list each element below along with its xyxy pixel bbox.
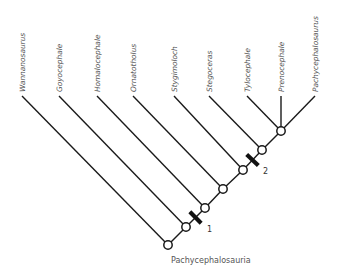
node-circle <box>277 127 285 135</box>
taxon-label: Goyocephale <box>55 43 64 92</box>
taxon-label: Pachycephalosaurus <box>311 16 320 92</box>
terminal-branch <box>133 96 223 189</box>
taxon-label: Stegoceras <box>205 50 214 92</box>
synapomorphy-label: 2 <box>263 167 268 176</box>
terminal-branch <box>22 96 168 245</box>
terminal-branch <box>247 96 281 131</box>
cladogram-svg: WannanosaurusGoyocephaleHomalocephaleOrn… <box>0 0 338 273</box>
terminal-branch <box>174 96 243 170</box>
cladogram-figure: WannanosaurusGoyocephaleHomalocephaleOrn… <box>0 0 338 273</box>
taxon-label: Tylocephale <box>243 48 252 92</box>
root-clade-label: Pachycephalosauria <box>171 256 251 265</box>
terminal-branch <box>281 96 315 131</box>
taxon-label: Wannanosaurus <box>18 33 27 92</box>
node-circle <box>201 204 209 212</box>
synapomorphy-label: 1 <box>207 225 212 234</box>
node-circle <box>258 146 266 154</box>
node-circle <box>164 241 172 249</box>
terminal-branch <box>59 96 186 227</box>
taxon-label: Prenocephale <box>277 41 286 92</box>
taxon-label: Ornatotholus <box>129 44 138 92</box>
node-circle <box>239 166 247 174</box>
taxon-label: Stygimoloch <box>170 46 179 92</box>
node-circle <box>219 185 227 193</box>
node-circle <box>182 223 190 231</box>
taxon-label: Homalocephale <box>93 34 102 92</box>
